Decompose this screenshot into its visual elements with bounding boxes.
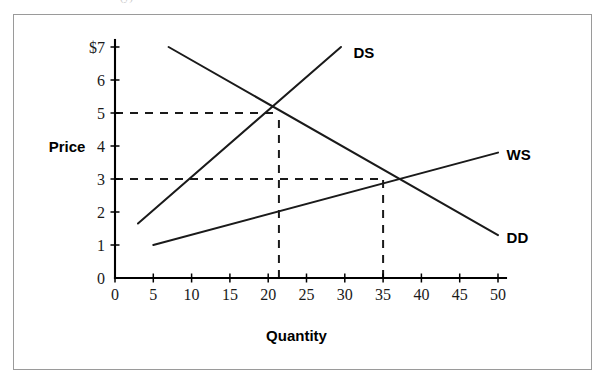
y-tick-label-6: 6 — [97, 72, 105, 89]
axes-group — [115, 40, 506, 278]
x-tick-label-45: 45 — [452, 286, 468, 303]
curves-group — [138, 47, 498, 245]
curve-label-dd: DD — [507, 229, 529, 246]
y-tick-label-7: $7 — [89, 39, 105, 56]
x-tick-label-20: 20 — [260, 286, 276, 303]
x-tick-label-40: 40 — [413, 286, 429, 303]
y-tick-label-0: 0 — [97, 270, 105, 287]
guide-lines-group — [115, 113, 383, 278]
x-tick-label-5: 5 — [149, 286, 157, 303]
curve-label-ws: WS — [507, 146, 531, 163]
curve-dd — [169, 47, 498, 235]
x-tick-label-30: 30 — [337, 286, 353, 303]
x-tick-label-10: 10 — [184, 286, 200, 303]
tick-labels-group: 051015202530354045500123456$7 — [89, 39, 506, 303]
curve-label-ds: DS — [353, 44, 374, 61]
axis-titles-group: QuantityPrice — [49, 138, 328, 344]
y-tick-label-2: 2 — [97, 204, 105, 221]
tick-marks-group — [111, 47, 499, 283]
y-tick-label-1: 1 — [97, 237, 105, 254]
y-tick-label-4: 4 — [97, 138, 105, 155]
y-tick-label-3: 3 — [97, 171, 105, 188]
x-tick-label-15: 15 — [222, 286, 238, 303]
supply-demand-figure: (y) · · · · · · · · · · · · · · · · · · … — [0, 0, 605, 384]
chart-canvas: 051015202530354045500123456$7 DDDSWS Qua… — [0, 0, 605, 384]
curve-labels-group: DDDSWS — [353, 44, 530, 246]
x-tick-label-50: 50 — [490, 286, 506, 303]
x-tick-label-25: 25 — [299, 286, 315, 303]
y-tick-label-5: 5 — [97, 105, 105, 122]
x-tick-label-0: 0 — [111, 286, 119, 303]
x-axis-title: Quantity — [266, 327, 327, 344]
curve-ds — [138, 47, 341, 224]
y-axis-title: Price — [49, 138, 86, 155]
x-tick-label-35: 35 — [375, 286, 391, 303]
